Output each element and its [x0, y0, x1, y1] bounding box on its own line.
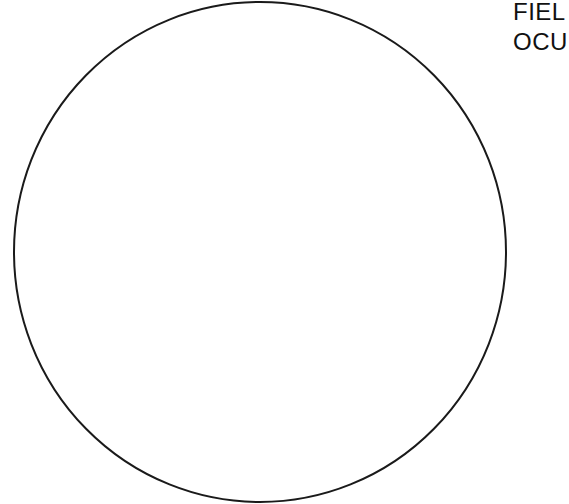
diagram-canvas	[0, 0, 569, 504]
label-ocular: OCU	[513, 27, 568, 57]
field-circle	[14, 2, 506, 502]
label-field: FIEL	[513, 0, 566, 27]
